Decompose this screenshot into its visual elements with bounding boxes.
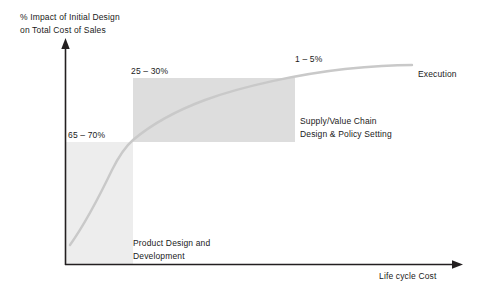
x-axis-title: Life cycle Cost (379, 270, 437, 283)
y-axis-arrowhead (61, 38, 69, 49)
band-label-supply-chain-percent: 25 – 30% (131, 65, 168, 78)
x-axis-arrowhead (452, 260, 463, 268)
chart-figure: % Impact of Initial Design on Total Cost… (0, 0, 481, 290)
y-axis-title: % Impact of Initial Design on Total Cost… (20, 11, 120, 36)
y-axis-title-line-1: % Impact of Initial Design (20, 11, 120, 24)
stage-label-supply-chain-line-2: Design & Policy Setting (300, 128, 392, 141)
stage-label-product-design-line-1: Product Design and (133, 237, 210, 250)
stage-band-product-design (65, 142, 133, 265)
band-label-execution-percent: 1 – 5% (295, 53, 322, 66)
y-axis-title-line-2: on Total Cost of Sales (20, 24, 120, 37)
stage-band-supply-chain (133, 78, 295, 142)
stage-label-product-design: Product Design and Development (133, 237, 210, 262)
stage-label-supply-chain: Supply/Value Chain Design & Policy Setti… (300, 115, 392, 140)
stage-label-supply-chain-line-1: Supply/Value Chain (300, 115, 392, 128)
chart-plot-area (0, 0, 481, 290)
stage-label-product-design-line-2: Development (133, 250, 210, 263)
band-label-product-design-percent: 65 – 70% (68, 129, 105, 142)
curve-end-label-execution: Execution (418, 68, 457, 81)
